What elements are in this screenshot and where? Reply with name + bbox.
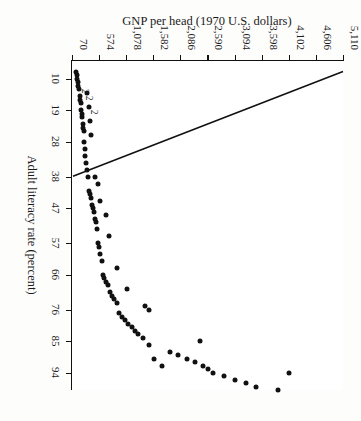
y-tick: [289, 55, 290, 61]
y-tick: [180, 55, 181, 61]
regression-line: [72, 61, 343, 390]
y-axis-title: GNP per head (1970 U.S. dollars): [71, 14, 343, 29]
plot-area: 10192838475766768594705741,0781,5822,086…: [71, 60, 343, 390]
data-point: [80, 122, 85, 127]
data-point: [86, 104, 91, 109]
y-tick: [72, 55, 73, 61]
data-point: [275, 388, 280, 393]
x-tick: [66, 79, 72, 80]
y-tick: [153, 55, 154, 61]
data-point: [168, 349, 173, 354]
x-tick: [66, 177, 72, 178]
data-point: [211, 370, 216, 375]
data-point: [243, 381, 248, 386]
x-tick-label: 94: [50, 367, 62, 378]
data-point: [99, 258, 104, 263]
data-point: [254, 384, 259, 389]
y-tick: [126, 55, 127, 61]
data-point: [93, 216, 98, 221]
data-point: [152, 356, 157, 361]
x-tick: [66, 208, 72, 209]
coincident-point-count: 2: [84, 96, 94, 101]
data-point: [107, 234, 112, 239]
data-point: [79, 108, 84, 113]
x-tick: [66, 142, 72, 143]
y-tick-label: 574: [105, 34, 117, 51]
data-point: [96, 241, 101, 246]
x-tick: [66, 310, 72, 311]
data-point: [184, 356, 189, 361]
data-point: [83, 160, 88, 165]
data-point: [160, 363, 165, 368]
y-tick-label: 70: [78, 39, 90, 50]
data-point: [82, 146, 87, 151]
y-tick-label: 5,110: [349, 26, 361, 50]
data-point: [74, 69, 79, 74]
x-tick: [66, 341, 72, 342]
data-point: [114, 265, 119, 270]
data-point: [95, 227, 100, 232]
data-point: [83, 153, 88, 158]
x-tick-label: 47: [50, 203, 62, 214]
data-point: [146, 307, 151, 312]
data-point: [197, 339, 202, 344]
data-point: [176, 353, 181, 358]
data-point: [86, 188, 91, 193]
data-point: [85, 174, 90, 179]
y-tick: [208, 55, 209, 61]
data-point: [117, 311, 122, 316]
x-tick-label: 10: [50, 73, 62, 84]
data-point: [84, 167, 89, 172]
x-tick: [66, 110, 72, 111]
y-tick: [262, 55, 263, 61]
data-point: [125, 286, 130, 291]
y-tick: [343, 55, 344, 61]
data-point: [222, 374, 227, 379]
y-tick: [99, 55, 100, 61]
data-point: [143, 304, 148, 309]
x-tick-label: 85: [50, 336, 62, 347]
x-tick-label: 66: [50, 269, 62, 280]
coincident-point-count: 2: [89, 110, 99, 115]
x-tick-label: 19: [50, 105, 62, 116]
x-tick-label: 38: [50, 171, 62, 182]
x-tick: [66, 243, 72, 244]
data-point: [103, 213, 108, 218]
data-point: [87, 118, 92, 123]
data-point: [88, 132, 93, 137]
data-point: [192, 360, 197, 365]
x-tick: [66, 373, 72, 374]
data-point: [146, 342, 151, 347]
x-tick-label: 76: [50, 304, 62, 315]
x-axis-title: Adult literacy rate (percent): [24, 60, 39, 390]
data-point: [93, 174, 98, 179]
y-tick: [235, 55, 236, 61]
data-point: [141, 335, 146, 340]
data-point: [200, 363, 205, 368]
data-point: [232, 377, 237, 382]
x-tick-label: 28: [50, 136, 62, 147]
data-point: [96, 181, 101, 186]
data-point: [98, 251, 103, 256]
data-point: [82, 139, 87, 144]
data-point: [206, 367, 211, 372]
data-point: [98, 199, 103, 204]
data-point: [286, 370, 291, 375]
data-point: [108, 290, 113, 295]
coincident-point-count: 2: [80, 89, 90, 94]
y-tick: [316, 55, 317, 61]
data-point: [133, 328, 138, 333]
x-tick-label: 57: [50, 238, 62, 249]
x-tick: [66, 275, 72, 276]
data-point: [89, 202, 94, 207]
data-point: [100, 272, 105, 277]
data-point: [77, 94, 82, 99]
